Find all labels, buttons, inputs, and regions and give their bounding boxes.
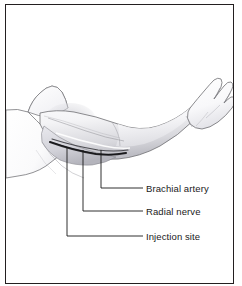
callout-label-injection-site: Injection site xyxy=(146,232,200,242)
callout-label-radial-nerve: Radial nerve xyxy=(146,207,201,217)
callout-label-brachial-artery: Brachial artery xyxy=(146,184,209,194)
hand-shape xyxy=(187,78,235,129)
anatomy-illustration xyxy=(0,0,242,286)
illustration-page: Brachial artery Radial nerve Injection s… xyxy=(0,0,242,286)
